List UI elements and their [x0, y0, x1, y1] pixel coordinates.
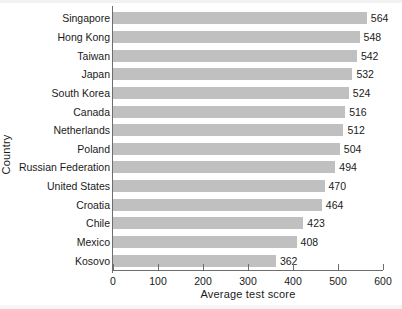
x-axis-tick-label: 500	[318, 275, 358, 287]
scan-edge-bottom	[0, 305, 402, 309]
bar	[113, 124, 343, 136]
bar-value-label: 516	[349, 106, 367, 118]
bar	[113, 31, 360, 43]
bar	[113, 255, 276, 267]
bar	[113, 161, 335, 173]
y-axis-tick-label: Taiwan	[14, 51, 110, 62]
x-axis-tick-label: 400	[273, 275, 313, 287]
y-axis-tick-label: Japan	[14, 69, 110, 80]
x-axis-tick	[293, 264, 294, 270]
bar	[113, 180, 325, 192]
y-axis-line	[112, 6, 113, 273]
bar-value-label: 470	[329, 180, 347, 192]
y-axis-tick-label: Singapore	[14, 13, 110, 24]
bar	[113, 68, 352, 80]
x-axis-tick	[248, 264, 249, 270]
bar-value-label: 512	[347, 124, 365, 136]
y-axis-tick-label: United States	[14, 181, 110, 192]
bar-value-label: 423	[307, 217, 325, 229]
x-axis-tick	[203, 264, 204, 270]
x-axis-title: Average test score	[113, 288, 383, 300]
bar-chart-figure: Country SingaporeHong KongTaiwanJapanSou…	[0, 0, 402, 309]
bar	[113, 236, 297, 248]
y-axis-tick-label: Canada	[14, 107, 110, 118]
bar	[113, 12, 367, 24]
bar-value-label: 524	[353, 87, 371, 99]
scan-edge-top	[0, 0, 402, 3]
x-axis-tick	[158, 264, 159, 270]
plot-area: 5645485425325245165125044944704644234083…	[113, 9, 383, 270]
y-axis-tick-label: Chile	[14, 218, 110, 229]
y-axis-tick-labels: SingaporeHong KongTaiwanJapanSouth Korea…	[14, 9, 110, 270]
y-axis-tick-label: Kosovo	[14, 256, 110, 267]
x-axis-tick-label: 0	[93, 275, 133, 287]
x-axis-tick-label: 600	[363, 275, 402, 287]
bar-value-label: 464	[326, 199, 344, 211]
bar	[113, 87, 349, 99]
x-axis-tick-label: 200	[183, 275, 223, 287]
bar-value-label: 408	[301, 236, 319, 248]
bar-value-label: 542	[361, 50, 379, 62]
y-axis-tick-label: Netherlands	[14, 125, 110, 136]
bar-value-label: 494	[339, 161, 357, 173]
bar	[113, 199, 322, 211]
bar-value-label: 362	[280, 255, 298, 267]
bar-value-label: 504	[344, 143, 362, 155]
y-axis-tick-label: Russian Federation	[14, 162, 110, 173]
bar	[113, 143, 340, 155]
x-axis-tick	[338, 264, 339, 270]
bar	[113, 50, 357, 62]
y-axis-tick-label: Mexico	[14, 237, 110, 248]
x-axis-line	[112, 270, 383, 271]
x-axis-tick	[113, 264, 114, 270]
bar-value-label: 564	[371, 12, 389, 24]
y-axis-tick-label: Croatia	[14, 200, 110, 211]
y-axis-tick-label: South Korea	[14, 88, 110, 99]
y-axis-tick-label: Hong Kong	[14, 32, 110, 43]
bar	[113, 217, 303, 229]
y-axis-tick-label: Poland	[14, 144, 110, 155]
x-axis-tick-label: 300	[228, 275, 268, 287]
x-axis-tick-label: 100	[138, 275, 178, 287]
bar	[113, 106, 345, 118]
x-axis-tick	[383, 264, 384, 270]
bar-value-label: 548	[364, 31, 382, 43]
bar-value-label: 532	[356, 68, 374, 80]
y-axis-title: Country	[0, 0, 14, 309]
